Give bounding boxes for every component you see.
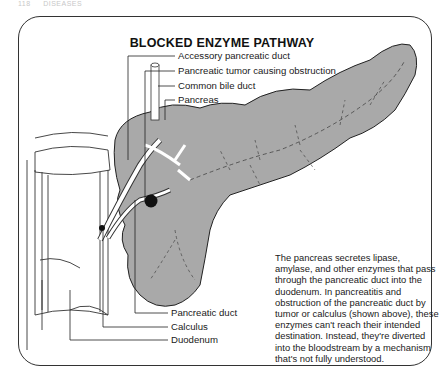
label-pancreatic-duct: Pancreatic duct [171, 307, 237, 318]
label-pancreatic-tumor: Pancreatic tumor causing obstruction [178, 65, 336, 76]
figure-description: The pancreas secretes lipase, amylase, a… [275, 252, 440, 364]
label-accessory-pancreatic-duct: Accessory pancreatic duct [178, 50, 290, 61]
label-duodenum: Duodenum [171, 334, 218, 345]
label-common-bile-duct: Common bile duct [178, 80, 255, 91]
label-pancreas: Pancreas [178, 94, 219, 105]
duodenum-tube-illustration [27, 132, 110, 350]
label-calculus: Calculus [171, 321, 208, 332]
